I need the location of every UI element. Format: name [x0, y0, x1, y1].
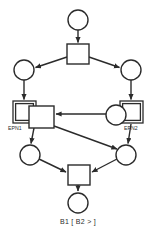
- label-layer: EPN1 EPN2: [8, 125, 138, 131]
- transition-join[interactable]: [68, 165, 90, 185]
- arc-left-transition-to-low-left-place: [31, 128, 34, 144]
- transition-fork[interactable]: [67, 44, 89, 64]
- place-end[interactable]: [68, 193, 88, 213]
- subnet-epn1-label: EPN1: [8, 125, 22, 131]
- subnet-epn2-label: EPN2: [124, 125, 138, 131]
- arc-left-transition-to-low-right-place: [54, 126, 117, 149]
- petri-net-canvas: EPN1 EPN2: [0, 0, 156, 241]
- transition-left[interactable]: [29, 106, 54, 128]
- arc-fork-to-right-place: [89, 57, 120, 68]
- arc-low-left-place-to-join: [39, 159, 66, 172]
- place-left-branch[interactable]: [14, 60, 34, 80]
- arc-fork-to-left-place: [36, 57, 68, 68]
- place-start[interactable]: [68, 10, 88, 30]
- place-low-right[interactable]: [116, 145, 136, 165]
- place-low-left[interactable]: [20, 145, 40, 165]
- petri-net-figure: EPN1 EPN2 B1 [ B2 > ]: [0, 0, 156, 241]
- place-right-branch[interactable]: [121, 60, 141, 80]
- place-mid-right[interactable]: [106, 105, 126, 125]
- figure-caption: B1 [ B2 > ]: [0, 218, 156, 225]
- arc-low-right-place-to-join: [92, 159, 117, 172]
